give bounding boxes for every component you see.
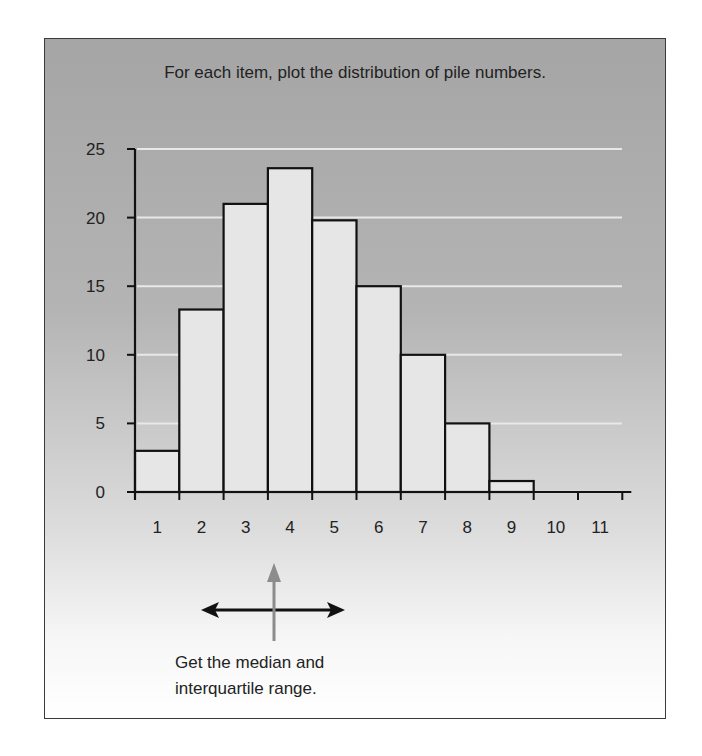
x-tick-label: 6 [374, 518, 383, 537]
x-tick-label: 8 [463, 518, 472, 537]
histogram-bar [224, 204, 268, 492]
y-axis-ticks: 0510152025 [86, 140, 135, 502]
histogram-bar [401, 355, 445, 492]
histogram-bar [489, 481, 533, 492]
note-line-1: Get the median and [175, 650, 324, 676]
histogram-bar [268, 168, 312, 492]
histogram-bar [312, 220, 356, 492]
x-tick-label: 7 [418, 518, 427, 537]
y-tick-label: 10 [86, 346, 105, 365]
x-tick-label: 9 [507, 518, 516, 537]
x-tick-label: 3 [241, 518, 250, 537]
y-tick-label: 0 [96, 483, 105, 502]
y-tick-label: 20 [86, 209, 105, 228]
histogram-bar [135, 451, 179, 492]
histogram-bar [445, 423, 489, 492]
x-axis-ticks: 1234567891011 [152, 492, 622, 537]
x-tick-label: 5 [330, 518, 339, 537]
x-tick-label: 11 [591, 518, 609, 537]
y-tick-label: 15 [86, 277, 105, 296]
x-tick-label: 1 [152, 518, 161, 537]
note-line-2: interquartile range. [175, 676, 324, 702]
y-tick-label: 25 [86, 140, 105, 159]
y-tick-label: 5 [96, 414, 105, 433]
histogram-bar [179, 310, 223, 492]
histogram-plot: 0510152025 1234567891011 [45, 39, 667, 720]
chart-panel: For each item, plot the distribution of … [44, 38, 666, 719]
histogram-bar [357, 286, 401, 492]
median-up-arrow-icon [267, 563, 281, 641]
x-tick-label: 2 [197, 518, 206, 537]
annotation-note: Get the median and interquartile range. [175, 650, 324, 702]
x-tick-label: 4 [285, 518, 294, 537]
x-tick-label: 10 [546, 518, 565, 537]
